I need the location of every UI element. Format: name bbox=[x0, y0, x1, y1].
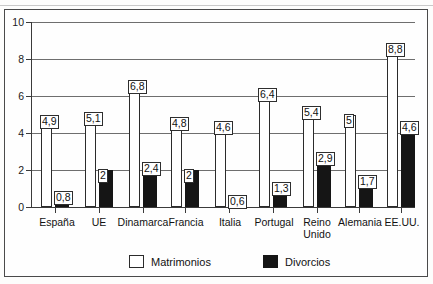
bar-value-divorcios: 2 bbox=[184, 169, 194, 183]
chart-figure: 0246810 4,90,85,126,82,44,824,60,66,41,3… bbox=[0, 0, 433, 284]
bar-value-matrimonios: 8,8 bbox=[386, 43, 405, 57]
bar-matrimonios bbox=[85, 113, 96, 207]
bar-value-divorcios: 2,4 bbox=[142, 162, 161, 176]
x-tick-mark bbox=[359, 208, 360, 213]
bar-value-divorcios: 0,6 bbox=[228, 195, 247, 209]
bar-value-divorcios: 0,8 bbox=[54, 191, 73, 205]
bar-value-matrimonios: 4,8 bbox=[170, 117, 189, 131]
x-axis-label: EE.UU. bbox=[370, 217, 433, 229]
legend-label-divorcios: Divorcios bbox=[285, 256, 330, 268]
x-tick-mark bbox=[317, 208, 318, 213]
scan-artifact-line bbox=[0, 5, 433, 6]
bar-matrimonios bbox=[345, 115, 356, 208]
y-tick-label: 8 bbox=[8, 54, 24, 65]
y-tick-label: 4 bbox=[8, 128, 24, 139]
bar-matrimonios bbox=[171, 118, 182, 207]
y-tick-label: 10 bbox=[8, 17, 24, 28]
y-tick-label: 0 bbox=[8, 202, 24, 213]
bar-value-matrimonios: 5 bbox=[344, 114, 354, 128]
bar-value-matrimonios: 5,4 bbox=[302, 106, 321, 120]
x-tick-mark bbox=[229, 208, 230, 213]
bar-value-matrimonios: 6,4 bbox=[258, 88, 277, 102]
bar-matrimonios bbox=[303, 107, 314, 207]
bar-value-divorcios: 2 bbox=[98, 169, 108, 183]
bar-value-matrimonios: 4,6 bbox=[214, 121, 233, 135]
x-tick-mark bbox=[55, 208, 56, 213]
bar-value-matrimonios: 4,9 bbox=[40, 115, 59, 129]
y-tick-label: 2 bbox=[8, 165, 24, 176]
bar-value-divorcios: 1,3 bbox=[272, 182, 291, 196]
x-axis-line bbox=[31, 207, 415, 208]
bar-matrimonios bbox=[387, 44, 398, 207]
bar-value-divorcios: 1,7 bbox=[358, 175, 377, 189]
x-tick-mark bbox=[185, 208, 186, 213]
legend-label-matrimonios: Matrimonios bbox=[151, 256, 211, 268]
y-tick-label: 6 bbox=[8, 91, 24, 102]
legend-swatch-white-icon bbox=[129, 255, 144, 268]
bar-value-matrimonios: 6,8 bbox=[128, 80, 147, 94]
bar-value-divorcios: 4,6 bbox=[400, 121, 419, 135]
x-tick-mark bbox=[273, 208, 274, 213]
bar-value-matrimonios: 5,1 bbox=[84, 112, 103, 126]
x-tick-mark bbox=[143, 208, 144, 213]
legend-item-matrimonios: Matrimonios bbox=[129, 255, 211, 268]
legend-swatch-black-icon bbox=[263, 255, 278, 268]
bars-area: 4,90,85,126,82,44,824,60,66,41,35,42,951… bbox=[31, 22, 415, 207]
bar-matrimonios bbox=[259, 89, 270, 207]
legend-item-divorcios: Divorcios bbox=[263, 255, 330, 268]
x-tick-mark bbox=[99, 208, 100, 213]
bar-value-divorcios: 2,9 bbox=[316, 152, 335, 166]
bar-matrimonios bbox=[129, 81, 140, 207]
bar-matrimonios bbox=[41, 116, 52, 207]
x-tick-mark bbox=[401, 208, 402, 213]
